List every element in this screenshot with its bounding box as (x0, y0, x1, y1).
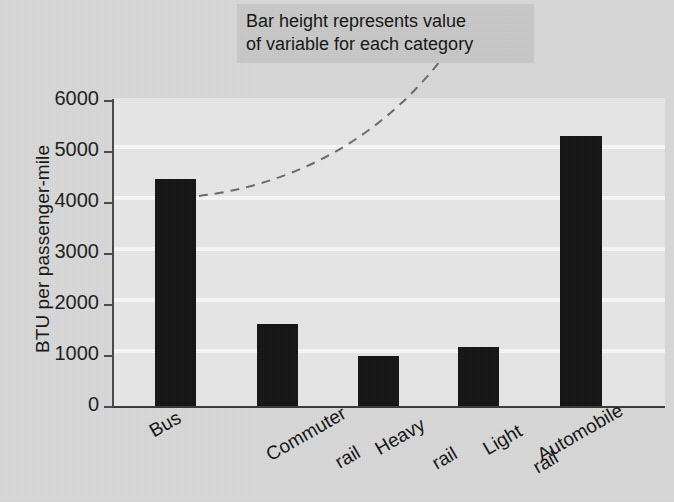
x-label-automobile: Automobile (534, 400, 627, 465)
y-axis-title: BTU per passenger-mile (32, 124, 54, 374)
y-tick-label-6000-text: 6000 (55, 87, 100, 110)
y-tick-label-4000-text: 4000 (55, 189, 100, 212)
annotation-text: Bar height represents value of variable … (246, 10, 526, 55)
x-label-light-rail-line1: Light (479, 420, 525, 459)
y-tick-4000 (104, 202, 113, 204)
bar-automobile (560, 136, 602, 406)
x-label-heavy-rail-line2: rail (392, 442, 461, 494)
y-tick-0 (104, 406, 113, 408)
annotation-callout: Bar height represents value of variable … (237, 4, 534, 63)
bar-bus (155, 179, 196, 406)
bar-heavy-rail (358, 356, 399, 406)
y-tick-1000 (104, 355, 113, 357)
y-tick-label-3000-text: 3000 (55, 240, 100, 263)
y-tick-5000 (104, 151, 113, 153)
y-tick-label-1000-text: 1000 (55, 342, 100, 365)
bar-light-rail (458, 347, 499, 406)
x-label-bus-text: Bus (146, 407, 185, 442)
x-label-bus: Bus (146, 408, 185, 442)
bar-commuter-rail (257, 324, 298, 406)
y-tick-6000 (104, 100, 113, 102)
y-tick-3000 (104, 253, 113, 255)
bar-chart: 6000 5000 4000 3000 2000 1000 0 BTU per … (0, 0, 674, 502)
y-tick-label-5000-text: 5000 (55, 138, 100, 161)
x-label-heavy-rail-line1: Heavy (371, 413, 428, 458)
y-tick-2000 (104, 304, 113, 306)
y-tick-label-0-text: 0 (88, 393, 99, 416)
x-label-automobile-text: Automobile (534, 400, 627, 466)
y-tick-label-2000-text: 2000 (55, 291, 100, 314)
